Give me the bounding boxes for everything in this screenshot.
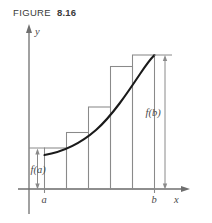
figure-container: FIGURE8.16 f(a) (0, 0, 212, 223)
f-of-b-dimension (154, 55, 172, 190)
x-axis-arrowhead (181, 186, 190, 192)
y-axis-label: y (34, 26, 40, 37)
function-curve (45, 55, 155, 155)
riemann-rectangle (133, 55, 155, 189)
y-axis (26, 24, 32, 214)
f-of-b-arrow-up (163, 55, 167, 61)
x-axis-label: x (173, 194, 179, 205)
x-tick-label-b: b (152, 194, 157, 205)
riemann-rectangle (111, 67, 133, 190)
f-of-a-label: f(a) (31, 164, 47, 176)
f-of-a-arrow-up (35, 149, 39, 155)
riemann-sum-plot: f(a) f(b) a b x y (0, 0, 212, 223)
y-axis-arrowhead (26, 24, 32, 33)
riemann-rectangle (67, 133, 89, 190)
riemann-rectangles (45, 55, 155, 189)
x-tick-label-a: a (42, 194, 47, 205)
f-of-b-label: f(b) (146, 107, 162, 119)
